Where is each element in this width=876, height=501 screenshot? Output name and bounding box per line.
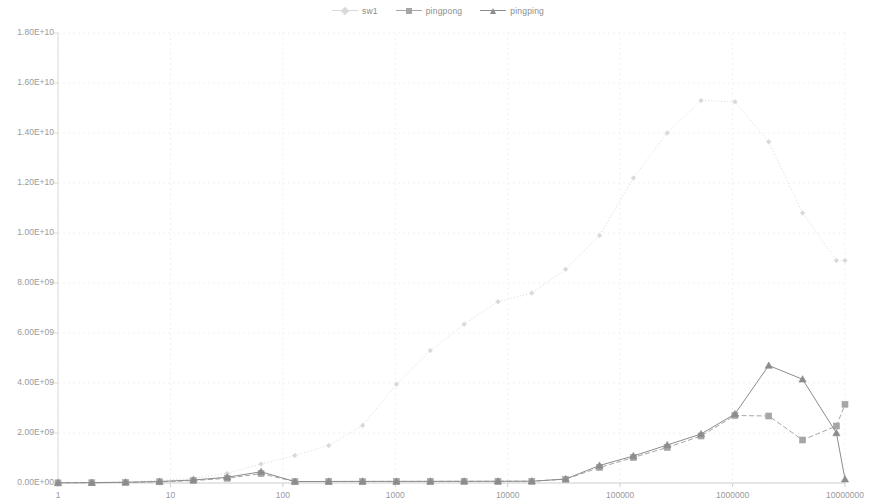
data-point-pingpong xyxy=(842,401,848,407)
data-point-pingping xyxy=(841,476,848,482)
x-tick-label: 10000000 xyxy=(826,490,864,500)
y-tick-label: 6.00E+09 xyxy=(0,327,54,337)
data-point-pingpong xyxy=(766,413,772,419)
data-point-pingping xyxy=(765,362,772,368)
data-point-sw1 xyxy=(834,258,839,263)
y-tick-label: 0.00E+00 xyxy=(0,477,54,487)
data-point-pingping xyxy=(799,376,806,382)
data-point-sw1 xyxy=(529,291,534,296)
y-tick-label: 1.80E+10 xyxy=(0,27,54,37)
y-tick-label: 2.00E+09 xyxy=(0,427,54,437)
data-point-sw1 xyxy=(843,258,848,263)
y-tick-label: 8.00E+09 xyxy=(0,277,54,287)
series-line-pingping xyxy=(58,366,845,483)
y-tick-label: 1.40E+10 xyxy=(0,127,54,137)
grid-lines xyxy=(58,33,845,483)
data-point-pingpong xyxy=(833,423,839,429)
data-point-sw1 xyxy=(597,233,602,238)
data-point-sw1 xyxy=(326,443,331,448)
data-series xyxy=(54,98,848,486)
y-tick-label: 1.20E+10 xyxy=(0,177,54,187)
x-tick-label: 1000000 xyxy=(716,490,749,500)
x-tick-label: 10 xyxy=(166,490,175,500)
x-tick-label: 1 xyxy=(56,490,61,500)
data-point-sw1 xyxy=(462,322,467,327)
series-line-pingpong xyxy=(58,404,845,483)
y-tick-label: 1.60E+10 xyxy=(0,77,54,87)
data-point-sw1 xyxy=(293,453,298,458)
x-tick-label: 100000 xyxy=(606,490,634,500)
x-tick-label: 100 xyxy=(276,490,290,500)
plot-area xyxy=(0,0,876,501)
x-tick-label: 10000 xyxy=(496,490,520,500)
data-point-sw1 xyxy=(360,423,365,428)
x-tick-label: 1000 xyxy=(386,490,405,500)
data-point-sw1 xyxy=(259,462,264,467)
data-point-sw1 xyxy=(665,131,670,136)
y-tick-label: 4.00E+09 xyxy=(0,377,54,387)
series-line-sw1 xyxy=(58,101,845,483)
data-point-pingpong xyxy=(800,437,806,443)
y-tick-label: 1.00E+10 xyxy=(0,227,54,237)
chart-container: sw1 pingpong pingping 0.00E+002.00E+094.… xyxy=(0,0,876,501)
